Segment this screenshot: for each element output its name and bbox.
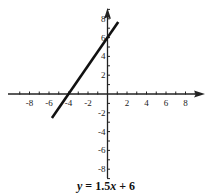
equation-caption: y = 1.5x + 6: [75, 179, 135, 193]
x-tick-label: 8: [183, 98, 188, 108]
y-tick-label: -6: [98, 145, 106, 155]
y-tick-label: 8: [101, 14, 106, 24]
x-tick-label: -8: [26, 98, 34, 108]
y-tick-label: -8: [98, 164, 106, 174]
y-tick-label: -4: [98, 127, 106, 137]
x-tick-label: 2: [125, 98, 130, 108]
line-graph: -8-6-4-22468-8-6-4-22468 y = 1.5x + 6: [0, 0, 213, 196]
x-tick-label: -2: [84, 98, 92, 108]
x-tick-label: 6: [164, 98, 169, 108]
y-tick-label: 4: [101, 51, 106, 61]
x-tick-label: -6: [45, 98, 53, 108]
y-tick-label: 2: [101, 70, 106, 80]
x-tick-label: 4: [144, 98, 149, 108]
y-tick-label: -2: [98, 108, 106, 118]
